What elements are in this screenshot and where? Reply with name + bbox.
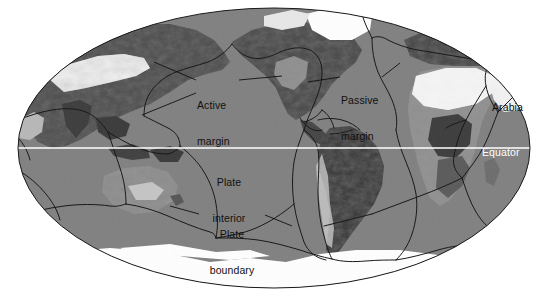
label-passive-margin: Passive margin [341,70,378,166]
label-equator: Equator [482,146,519,158]
label-active-margin-line2: margin [197,135,230,147]
label-plate-boundary: Plate boundary [200,204,264,296]
label-plate-boundary-line1: Plate [200,228,264,240]
label-plate-interior-line1: Plate [202,176,256,188]
label-passive-margin-line1: Passive [341,94,378,106]
map-graphic [0,0,547,296]
label-passive-margin-line2: margin [341,130,378,142]
world-plate-map-figure: Active margin Passive margin Arabia Equa… [0,0,547,296]
label-arabia: Arabia [492,101,523,113]
label-active-margin-line1: Active [197,99,230,111]
label-plate-boundary-line2: boundary [200,264,264,276]
